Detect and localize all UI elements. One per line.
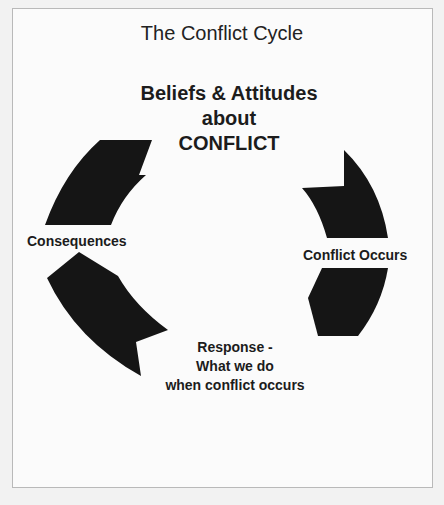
center-heading-line2: about — [118, 106, 340, 131]
arrow-bottom-left-icon — [47, 252, 168, 376]
stage-response-label: Response - What we do when conflict occu… — [160, 338, 310, 395]
response-line2: What we do — [160, 357, 310, 376]
center-heading-line3: CONFLICT — [118, 131, 340, 156]
diagram-title: The Conflict Cycle — [0, 22, 444, 45]
stage-consequences-label: Consequences — [27, 233, 127, 249]
center-heading-line1: Beliefs & Attitudes — [118, 81, 340, 106]
center-heading: Beliefs & Attitudes about CONFLICT — [118, 81, 340, 156]
response-line1: Response - — [160, 338, 310, 357]
arc-bottom-right-icon — [308, 268, 388, 336]
arrow-top-right-icon — [302, 150, 388, 238]
stage-conflict-occurs-label: Conflict Occurs — [303, 247, 407, 263]
response-line3: when conflict occurs — [160, 376, 310, 395]
